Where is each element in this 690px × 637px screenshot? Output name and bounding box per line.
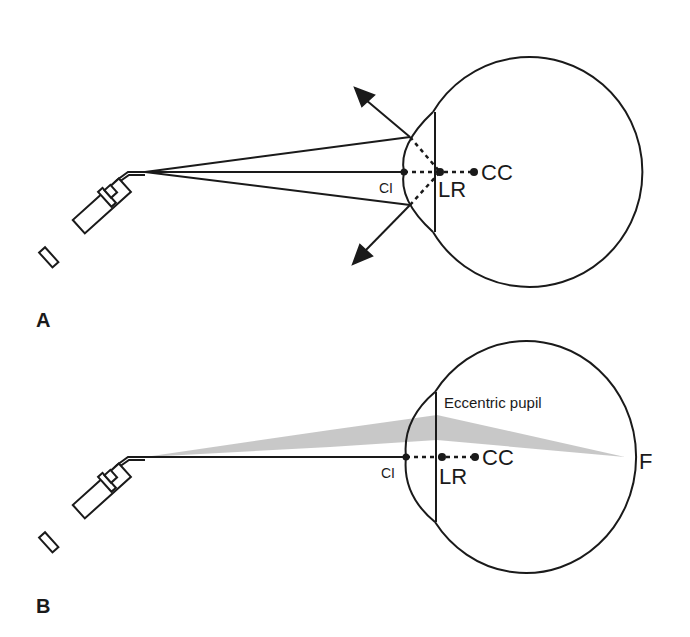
label-lr: LR [438,177,466,202]
lr-point [436,168,444,176]
label-f: F [639,449,652,474]
penlight-icon [39,172,145,267]
cc-point [470,168,478,176]
ci-point [401,169,408,176]
ci-point [403,454,410,461]
panel-label-b: B [36,595,50,617]
label-eccentric-pupil: Eccentric pupil [444,394,542,411]
panel-b: Eccentric pupil CC LR CI F B [36,341,652,617]
eyeball-outline [433,57,642,287]
light-beam [145,415,625,457]
label-cc: CC [481,160,513,185]
incident-rays [145,137,410,205]
label-cc: CC [482,445,514,470]
cc-point [471,453,479,461]
diagram-canvas: CC LR CI A Eccentric pupil CC LR CI F B [0,0,690,637]
label-ci: CI [381,465,395,481]
lr-point [438,453,446,461]
reflected-rays [353,88,410,264]
label-ci: CI [379,180,393,196]
panel-label-a: A [36,309,50,331]
panel-a: CC LR CI A [36,57,642,331]
label-lr: LR [439,464,467,489]
penlight-icon [39,457,145,552]
